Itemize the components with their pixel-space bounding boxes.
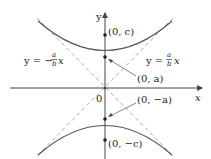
vertex-bottom-label: (0, −a) [137,94,172,105]
vertex-top-point [103,55,107,59]
vertex-bottom-point [103,117,107,121]
asymptote-negative-label: y = − a b x [23,51,64,68]
svg-text:b: b [167,60,172,68]
svg-text:a: a [167,51,171,59]
svg-text:a: a [52,51,56,59]
origin-point [104,87,107,90]
x-axis-label: x [195,92,201,103]
vertex-top-leader [110,60,136,76]
focus-bottom-label: (0, −c) [108,138,143,149]
svg-text:x: x [174,55,180,66]
focus-bottom-point [103,138,107,142]
vertex-top-leader-arrow-icon [108,59,113,63]
y-axis-label: y [95,11,102,22]
svg-text:b: b [52,60,57,68]
vertex-bottom-leader-arrow-icon [108,113,113,117]
asymptote-positive-label: y = a b x [145,51,180,68]
svg-text:y = −: y = − [23,55,53,66]
focus-top-label: (0, c) [108,26,134,37]
origin-label: 0 [96,93,102,104]
hyperbola-diagram: y x 0 (0, c) (0, a) (0, −a) (0, −c) y = … [0,0,211,159]
svg-text:x: x [58,55,64,66]
svg-text:y =: y = [145,55,163,66]
focus-top-point [103,33,107,37]
vertex-top-label: (0, a) [137,73,164,84]
